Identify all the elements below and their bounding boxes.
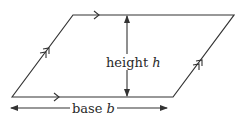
height-label-word: height xyxy=(106,55,148,70)
base-label: base b xyxy=(70,102,117,115)
height-label: height h xyxy=(105,55,162,70)
base-label-word: base xyxy=(72,101,102,116)
base-label-variable: b xyxy=(107,101,115,116)
height-label-variable: h xyxy=(152,55,160,70)
